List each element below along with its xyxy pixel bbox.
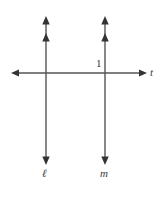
line-m-arrowhead-top: [101, 16, 108, 25]
label-line-t: t: [150, 67, 153, 78]
line-ell: [42, 16, 49, 165]
line-m-parallel-mark: [101, 33, 108, 42]
line-t: [11, 70, 147, 77]
line-t-arrowhead-right: [139, 70, 147, 77]
line-t-arrowhead-left: [11, 70, 19, 77]
line-ell-parallel-mark: [42, 33, 49, 42]
line-m: [101, 16, 108, 165]
geometry-figure: ℓ m t 1: [0, 0, 165, 199]
label-line-m: m: [100, 168, 108, 179]
geometry-canvas: [0, 0, 165, 199]
label-angle-1: 1: [96, 58, 102, 69]
line-ell-arrowhead-top: [42, 16, 49, 25]
line-ell-arrowhead-bottom: [42, 157, 49, 166]
line-m-arrowhead-bottom: [101, 157, 108, 166]
label-line-ell: ℓ: [42, 168, 47, 179]
